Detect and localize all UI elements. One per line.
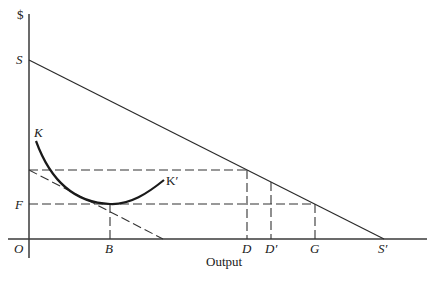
line-s-s-prime (29, 60, 384, 239)
x-axis-label: Output (206, 254, 243, 269)
y-axis-label: $ (17, 7, 24, 22)
economics-diagram: $ S K K′ F O B D D′ G S′ Output (0, 0, 436, 282)
label-f: F (14, 197, 24, 212)
origin-label: O (14, 241, 24, 256)
label-s: S (16, 52, 23, 67)
label-d-prime: D′ (264, 241, 277, 256)
label-k: K (33, 125, 44, 140)
label-d: D (241, 241, 252, 256)
label-k-prime: K′ (166, 173, 178, 188)
k-k-prime-curve (36, 141, 164, 204)
label-s-prime: S′ (378, 241, 388, 256)
label-b: B (105, 241, 113, 256)
label-g: G (310, 241, 320, 256)
